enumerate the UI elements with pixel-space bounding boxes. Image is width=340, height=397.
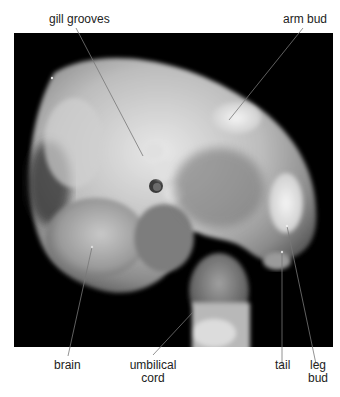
label-leg-bud: leg bud: [303, 359, 333, 385]
label-brain: brain: [54, 359, 81, 372]
embryo-figure: gill grooves arm bud brain umbilical cor…: [0, 0, 340, 397]
label-umbilical-cord: umbilical cord: [120, 359, 186, 385]
label-leg-bud-line2: bud: [303, 372, 333, 385]
label-gill-grooves: gill grooves: [49, 13, 110, 26]
leader-lines: [0, 0, 340, 397]
leg-bud-leader: [287, 226, 316, 364]
label-arm-bud: arm bud: [283, 13, 327, 26]
label-tail: tail: [275, 359, 290, 372]
label-umbilical-cord-line2: cord: [120, 372, 186, 385]
umbilical-cord-leader: [153, 312, 193, 355]
gill-grooves-leader: [76, 28, 143, 156]
arm-bud-leader: [229, 28, 303, 120]
brain-leader: [68, 247, 92, 356]
